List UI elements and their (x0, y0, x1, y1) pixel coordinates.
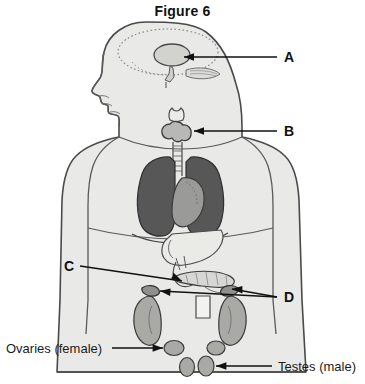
pituitary-gland[interactable] (154, 44, 190, 66)
label-b: B (284, 123, 294, 139)
kidney-left (219, 296, 246, 345)
kidney-right (134, 296, 161, 345)
testis-left[interactable] (180, 358, 195, 377)
label-testes: Testes (male) (278, 359, 356, 374)
ovary-right[interactable] (207, 341, 225, 355)
endocrine-system-diagram: A B C D Ovaries (female) Testes (male) (0, 0, 365, 384)
figure-container: Figure 6 (0, 0, 365, 384)
label-a: A (284, 49, 294, 65)
bladder (196, 296, 210, 318)
label-ovaries: Ovaries (female) (6, 341, 102, 356)
label-c: C (64, 258, 74, 274)
ovary-left[interactable] (164, 341, 184, 356)
label-d: D (284, 289, 294, 305)
testis-right[interactable] (198, 356, 214, 376)
